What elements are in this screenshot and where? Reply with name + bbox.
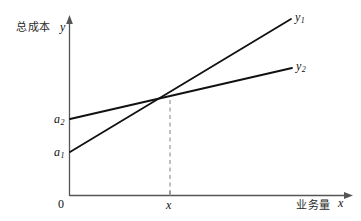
- y-intercept-label-a2: a2: [54, 113, 64, 127]
- y-intercept-label-a1-subscript: 1: [60, 151, 64, 160]
- y-axis-arrowhead: [66, 15, 73, 24]
- x-axis-arrowhead: [344, 192, 353, 199]
- series-label-y1-subscript: 1: [301, 16, 305, 25]
- y-intercept-label-a2-subscript: 2: [60, 118, 64, 127]
- y-axis-title: 总成本: [16, 22, 51, 33]
- y-axis-symbol: y: [60, 21, 65, 33]
- series-label-y2-subscript: 2: [302, 65, 306, 74]
- series-label-y1-base: y: [295, 10, 300, 24]
- x-axis-symbol: x: [338, 197, 343, 209]
- origin-label: 0: [58, 198, 64, 210]
- cost-volume-chart: 总成本 y 业务量 x y1 y2 a2 a1 0 x: [0, 0, 361, 221]
- y-intercept-label-a1: a1: [54, 146, 64, 160]
- breakeven-x-label: x: [166, 199, 171, 211]
- series-line-y2: [70, 68, 292, 119]
- axes-group: [66, 15, 353, 199]
- series-line-y1: [70, 19, 291, 152]
- series-label-y2: y2: [296, 60, 306, 74]
- series-label-y2-base: y: [296, 59, 301, 73]
- series-label-y1: y1: [295, 11, 305, 25]
- chart-canvas: [0, 0, 361, 221]
- x-axis-title: 业务量: [296, 200, 331, 211]
